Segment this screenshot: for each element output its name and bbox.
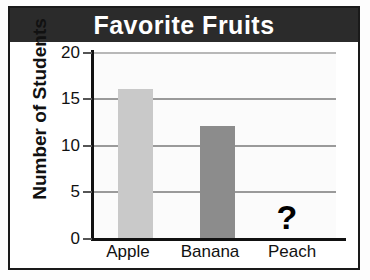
chart-title: Favorite Fruits (93, 13, 274, 38)
y-tick-label-10: 10 (46, 137, 80, 154)
y-tick-mark-20 (83, 52, 92, 54)
y-axis-title: Number of Students (29, 9, 51, 209)
unknown-value-marker: ? (267, 200, 307, 234)
bar-apple (118, 89, 153, 238)
x-tick-label-peach: Peach (252, 243, 332, 260)
chart-title-bar: Favorite Fruits (10, 8, 358, 42)
x-tick-label-apple: Apple (88, 243, 168, 260)
chart-figure: Favorite Fruits Number of Students ? 20 … (0, 0, 370, 280)
gridline-20 (93, 52, 336, 54)
y-tick-label-0: 0 (46, 230, 80, 247)
plot-area: ? (93, 52, 336, 238)
y-tick-label-20: 20 (46, 44, 80, 61)
x-axis-line (91, 238, 346, 241)
y-tick-mark-15 (83, 98, 92, 100)
bar-banana (200, 126, 235, 238)
y-tick-mark-10 (83, 145, 92, 147)
y-tick-mark-0 (83, 238, 92, 240)
x-tick-label-banana: Banana (170, 243, 250, 260)
y-tick-mark-5 (83, 191, 92, 193)
y-tick-label-5: 5 (46, 183, 80, 200)
y-tick-label-15: 15 (46, 90, 80, 107)
